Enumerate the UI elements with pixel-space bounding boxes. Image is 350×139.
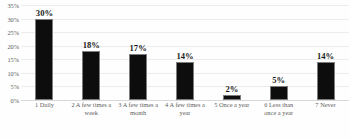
bar-slot: 5% [259,5,299,100]
bar[interactable] [82,51,100,100]
y-axis-tick-label: 5% [11,83,19,90]
bar[interactable] [35,19,53,100]
bar-slot: 2% [212,5,252,100]
x-axis-category-label: 2 A few times a week [71,101,111,116]
bar-value-label: 17% [118,43,158,53]
y-axis-tick-label: 10% [7,69,19,76]
x-axis-category-label: 7 Never [306,101,346,109]
bar-slot: 14% [306,5,346,100]
y-axis: 35%30%25%20%15%10%5%0% [0,5,20,100]
y-axis-tick-label: 30% [7,15,19,22]
bar-slot: 30% [24,5,64,100]
y-axis-tick-label: 15% [7,56,19,63]
y-axis-tick-label: 20% [7,42,19,49]
bar[interactable] [129,54,147,100]
bar-value-label: 5% [259,75,299,85]
bar-slot: 18% [71,5,111,100]
x-axis: 1 Daily2 A few times a week3 A few times… [21,101,349,139]
y-axis-tick-label: 35% [7,2,19,9]
plot-area: 30%18%17%14%2%5%14% [21,5,349,100]
bar-slot: 14% [165,5,205,100]
bar-slot: 17% [118,5,158,100]
bar-value-label: 18% [71,40,111,50]
bar-value-label: 14% [306,51,346,61]
bar[interactable] [270,86,288,100]
x-axis-category-label: 4 A few times a year [165,101,205,116]
y-axis-tick-label: 25% [7,29,19,36]
x-axis-category-label: 6 Less than once a year [259,101,299,116]
x-axis-category-label: 1 Daily [24,101,64,109]
bar[interactable] [176,62,194,100]
x-axis-category-label: 5 Once a year [212,101,252,109]
bar-chart: 35%30%25%20%15%10%5%0% 30%18%17%14%2%5%1… [0,0,350,139]
bar-value-label: 2% [212,84,252,94]
bar-value-label: 30% [24,8,64,18]
y-axis-tick-label: 0% [11,97,19,104]
x-axis-category-label: 3 A few times a month [118,101,158,116]
bar[interactable] [223,95,241,100]
bar[interactable] [317,62,335,100]
bar-value-label: 14% [165,51,205,61]
